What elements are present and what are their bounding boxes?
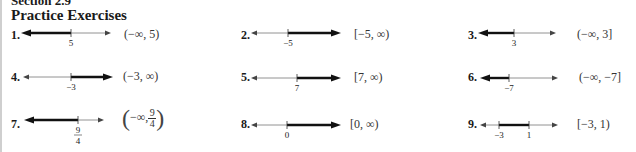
page-margin-rule <box>0 0 2 152</box>
tick-label-start: −3 <box>494 130 504 140</box>
tick-label: 0 <box>285 130 290 140</box>
tick-label: 7 <box>295 83 300 93</box>
exercise-number: 3. <box>468 28 477 43</box>
exercise-number: 1. <box>11 28 20 43</box>
practice-heading: Practice Exercises <box>11 7 127 24</box>
exercise-number: 6. <box>468 70 477 85</box>
number-line: −3 <box>23 73 113 99</box>
exercise-number: 9. <box>468 117 477 132</box>
tick-label-numerator: 9 <box>76 125 81 135</box>
exercise-number: 4. <box>11 70 20 85</box>
tick-label: −7 <box>504 83 514 93</box>
interval-answer: (−∞, 3] <box>577 27 612 42</box>
tick-label-denominator: 4 <box>76 136 81 146</box>
answer-prefix: −∞, <box>130 110 148 124</box>
interval-answer: (−∞, −7] <box>579 70 621 85</box>
tick-label-end: 1 <box>527 130 532 140</box>
number-line: 0 <box>251 121 341 147</box>
interval-answer: [0, ∞) <box>350 117 379 132</box>
number-line: −7 <box>480 74 558 100</box>
tick-label: −5 <box>283 38 293 48</box>
tick-label: −3 <box>66 82 76 92</box>
tick-label: 3 <box>512 38 517 48</box>
number-line: −3 1 <box>480 121 558 147</box>
fraction-numerator: 9 <box>150 108 155 118</box>
interval-answer: (−∞, 5) <box>124 27 159 42</box>
interval-answer: [7, ∞) <box>354 70 383 85</box>
interval-answer: [−3, 1) <box>577 117 610 132</box>
exercise-number: 8. <box>241 117 250 132</box>
number-line: −5 <box>251 29 341 55</box>
exercise-number: 2. <box>241 28 250 43</box>
number-line: 7 <box>251 74 341 100</box>
exercise-number: 5. <box>241 70 250 85</box>
close-paren: ) <box>156 105 164 131</box>
exercise-number: 7. <box>11 117 20 132</box>
number-line: 3 <box>478 29 556 55</box>
interval-answer: (−∞,94) <box>122 105 164 132</box>
number-line: 9 4 <box>24 116 104 150</box>
number-line: 5 <box>21 29 111 55</box>
fraction-denominator: 4 <box>150 119 155 129</box>
interval-answer: (−3, ∞) <box>123 69 158 84</box>
interval-answer: [−5, ∞) <box>354 27 389 42</box>
tick-label: 5 <box>69 38 74 48</box>
open-paren: ( <box>122 105 130 131</box>
